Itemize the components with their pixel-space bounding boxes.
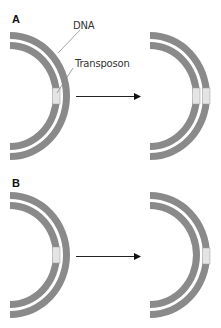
transposon-segment-inner xyxy=(193,88,201,104)
dna-label: DNA xyxy=(73,21,94,31)
diagram-canvas xyxy=(0,0,221,328)
outer-strand xyxy=(150,192,210,318)
panel-a-arrow xyxy=(76,93,141,100)
panel-b-arrow xyxy=(76,253,141,260)
transposon-segment-outer xyxy=(203,248,211,264)
panel-b-after-dna xyxy=(150,192,210,318)
panel-a-after-dna xyxy=(150,32,210,160)
panel-b xyxy=(10,192,210,318)
panel-a-before-dna xyxy=(10,32,70,160)
outer-strand xyxy=(10,32,70,160)
left-crop-mask xyxy=(0,0,10,328)
transposon-label: Transposon xyxy=(75,59,130,69)
panel-a xyxy=(10,30,210,160)
outer-strand xyxy=(10,192,70,318)
panel-label-a: A xyxy=(12,14,20,25)
transposon-segment-outer xyxy=(203,88,211,104)
panel-label-b: B xyxy=(12,178,20,189)
panel-b-before-dna xyxy=(10,192,70,318)
transposition-diagram: A B DNA Transposon xyxy=(0,0,221,328)
transposon-segment xyxy=(53,247,61,263)
dna-leader-line xyxy=(58,30,80,53)
outer-strand xyxy=(150,32,210,160)
